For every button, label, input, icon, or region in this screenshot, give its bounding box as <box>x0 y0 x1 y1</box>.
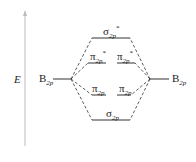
pi2p-star-label-a: π2p* <box>90 50 106 65</box>
mo-sup: * <box>103 49 107 57</box>
mo-diagram-canvas <box>0 0 196 162</box>
mo-sub: 2p <box>125 89 132 97</box>
left-atomic-label: B2p <box>39 73 53 87</box>
pi2p-star-label-b: π2p* <box>117 50 133 65</box>
pi2p-label-b: π2p <box>119 83 132 97</box>
mo-sub: 2p <box>109 32 116 40</box>
right-atom-sub: 2p <box>179 79 186 87</box>
sigma2p-label: σ2p <box>106 108 119 122</box>
sigma2p-star-label: σ2p* <box>103 25 119 40</box>
mo-sub: 2p <box>112 114 119 122</box>
mo-sub: 2p <box>96 57 103 65</box>
energy-axis-arrowhead-icon <box>23 10 27 16</box>
pi2p-label-a: π2p <box>92 83 105 97</box>
mo-sub: 2p <box>123 57 130 65</box>
left-atom-sub: 2p <box>46 79 53 87</box>
energy-axis-label: E <box>14 74 21 85</box>
right-atomic-label: B2p <box>172 73 186 87</box>
mo-sub: 2p <box>98 89 105 97</box>
mo-sup: * <box>130 49 134 57</box>
mo-sup: * <box>116 24 120 32</box>
